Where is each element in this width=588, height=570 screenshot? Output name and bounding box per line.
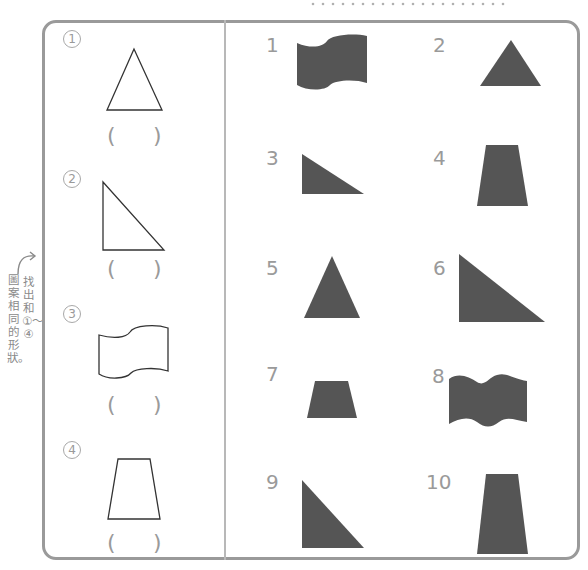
option-6-right-triangle-shape[interactable]	[459, 254, 547, 324]
question-2-right-triangle-outline	[102, 181, 167, 251]
answer-slot-2[interactable]	[120, 258, 150, 282]
option-number-6: 6	[433, 256, 446, 280]
option-3-right-triangle-shape[interactable]	[302, 154, 366, 196]
answer-close-paren-3: )	[153, 392, 162, 417]
instruction-line-1: 找出和①〜④	[22, 276, 35, 341]
answer-close-paren-1: )	[153, 123, 162, 148]
option-number-7: 7	[266, 362, 279, 386]
option-7-trapezoid-shape[interactable]	[307, 381, 359, 419]
answer-slot-3[interactable]	[120, 394, 150, 418]
option-10-trapezoid-shape[interactable]	[477, 474, 531, 556]
answer-open-paren-4: (	[107, 530, 116, 555]
instruction-note: 找出和①〜④ 圖案相同的形狀。	[0, 250, 40, 380]
question-4-trapezoid-outline	[107, 458, 163, 522]
answer-slot-4[interactable]	[120, 532, 150, 556]
column-divider	[224, 20, 226, 560]
answer-slot-1[interactable]	[120, 125, 150, 149]
option-number-10: 10	[426, 470, 451, 494]
question-3-flag-outline	[98, 323, 173, 383]
question-1-triangle-outline	[105, 48, 165, 113]
option-number-9: 9	[266, 470, 279, 494]
option-9-right-triangle-shape[interactable]	[302, 480, 366, 550]
option-5-triangle-shape[interactable]	[304, 256, 362, 320]
option-number-1: 1	[266, 33, 279, 57]
question-number-2: 2	[63, 170, 81, 188]
answer-close-paren-2: )	[153, 256, 162, 281]
option-4-trapezoid-shape[interactable]	[477, 145, 531, 208]
option-number-3: 3	[266, 146, 279, 170]
answer-open-paren-3: (	[107, 392, 116, 417]
dotted-line-decoration	[310, 0, 510, 8]
option-number-4: 4	[433, 146, 446, 170]
option-number-5: 5	[266, 256, 279, 280]
option-8-double-wave-shape[interactable]	[449, 374, 531, 430]
instruction-line-2: 圖案相同的形狀。	[7, 274, 20, 365]
question-number-1: 1	[63, 30, 81, 48]
question-number-4: 4	[63, 441, 81, 459]
option-1-flag-shape[interactable]	[297, 33, 372, 93]
answer-open-paren-1: (	[107, 123, 116, 148]
option-number-2: 2	[433, 33, 446, 57]
answer-open-paren-2: (	[107, 256, 116, 281]
question-number-3: 3	[63, 305, 81, 323]
option-number-8: 8	[432, 364, 445, 388]
option-2-triangle-shape[interactable]	[480, 40, 542, 88]
answer-close-paren-4: )	[153, 530, 162, 555]
